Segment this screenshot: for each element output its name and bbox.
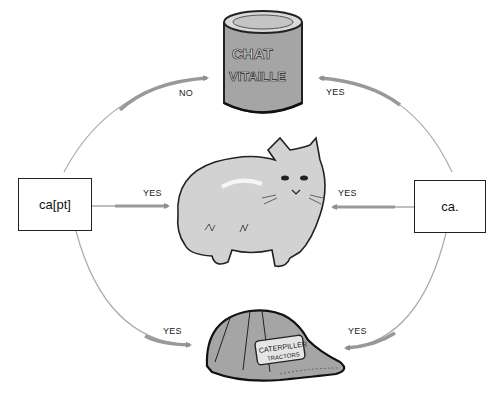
baseball-cap-icon: CATERPILLER TRACTORS [207, 310, 344, 380]
edge-label-right-can: YES [326, 87, 345, 97]
edge-label-left-cap: YES [163, 326, 182, 336]
edge-label-right-cap: YES [348, 326, 367, 336]
svg-text:VITAILLE: VITAILLE [229, 69, 286, 84]
svg-text:CHAT: CHAT [232, 45, 273, 62]
edge-label-left-can: NO [179, 88, 193, 98]
node-label: ca[pt] [39, 197, 71, 212]
edge-label-left-cat: YES [143, 188, 162, 198]
node-box-capt: ca[pt] [18, 178, 92, 231]
pet-food-can-icon: CHAT VITAILLE [224, 11, 302, 113]
node-box-ca: ca. [414, 180, 486, 233]
cat-illustration [178, 138, 325, 266]
query-match-diagram: CHAT VITAILLE CATERPILLER TRACTORS ca[pt… [0, 0, 499, 409]
node-label: ca. [441, 199, 458, 214]
edge-label-right-cat: YES [338, 188, 357, 198]
